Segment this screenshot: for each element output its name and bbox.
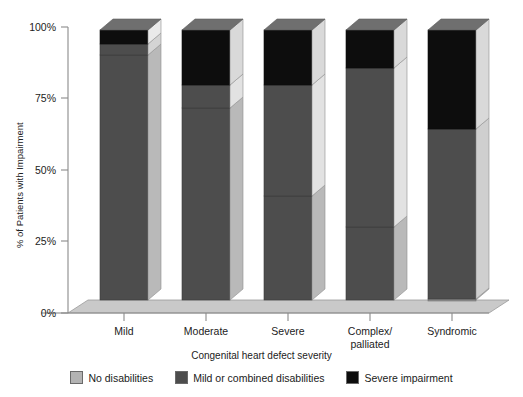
legend-swatch-no-disabilities (70, 371, 83, 384)
legend-label-no-disabilities: No disabilities (88, 372, 153, 384)
legend-swatch-mild-or-combined (175, 371, 188, 384)
y-tick-75: 75% (14, 92, 56, 104)
bar-moderate[interactable] (182, 19, 243, 300)
x-axis-label: Congenital heart defect severity (0, 350, 523, 361)
x-tick-syndromic-line1: Syndromic (407, 325, 497, 338)
legend-item-mild-or-combined[interactable]: Mild or combined disabilities (175, 371, 324, 384)
chart-floor (68, 300, 509, 313)
legend: No disabilities Mild or combined disabil… (0, 371, 523, 384)
bar-mild[interactable] (100, 19, 161, 300)
x-tick-complex-palliated: Complex/ palliated (325, 325, 415, 350)
legend-label-mild-or-combined: Mild or combined disabilities (193, 372, 324, 384)
x-tick-moderate: Moderate (161, 325, 251, 338)
bar-severe[interactable] (264, 19, 325, 300)
y-tick-100: 100% (14, 21, 56, 33)
bar-syndromic[interactable] (428, 19, 489, 301)
y-tick-0: 0% (14, 307, 56, 319)
x-tick-complex-line1: Complex/ (325, 325, 415, 338)
x-tick-severe: Severe (243, 325, 333, 338)
x-tick-moderate-line1: Moderate (161, 325, 251, 338)
x-tick-syndromic: Syndromic (407, 325, 497, 338)
x-axis (41, 313, 489, 321)
x-tick-mild: Mild (79, 325, 169, 338)
legend-item-severe-impairment[interactable]: Severe impairment (346, 371, 452, 384)
legend-item-no-disabilities[interactable]: No disabilities (70, 371, 153, 384)
y-axis-label: % of Patients with Impairment (14, 122, 25, 248)
bar-complex-palliated[interactable] (346, 19, 407, 300)
x-tick-mild-line1: Mild (79, 325, 169, 338)
y-axis (61, 27, 68, 313)
x-tick-complex-line2: palliated (325, 338, 415, 351)
legend-swatch-severe-impairment (346, 371, 359, 384)
legend-label-severe-impairment: Severe impairment (364, 372, 452, 384)
x-tick-severe-line1: Severe (243, 325, 333, 338)
